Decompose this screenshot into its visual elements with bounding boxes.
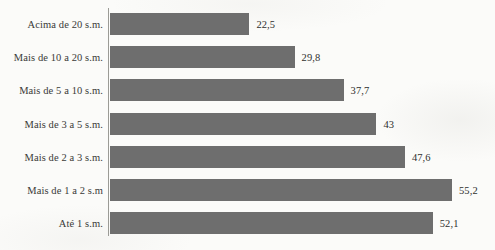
bar-chart: Acima de 20 s.m.22,5Mais de 10 a 20 s.m.… bbox=[0, 0, 495, 250]
bar bbox=[110, 46, 295, 68]
category-label: Mais de 10 a 20 s.m. bbox=[0, 52, 103, 63]
bar-row: Mais de 1 a 2 s.m55,2 bbox=[0, 179, 495, 201]
category-label: Mais de 5 a 10 s.m. bbox=[0, 85, 103, 96]
bar-row: Mais de 10 a 20 s.m.29,8 bbox=[0, 46, 495, 68]
category-label: Mais de 1 a 2 s.m bbox=[0, 185, 103, 196]
category-label: Mais de 3 a 5 s.m. bbox=[0, 118, 103, 129]
bar bbox=[110, 13, 249, 35]
bar-row: Mais de 3 a 5 s.m.43 bbox=[0, 113, 495, 135]
bar bbox=[110, 179, 452, 201]
bar bbox=[110, 212, 433, 234]
category-label: Até 1 s.m. bbox=[0, 218, 103, 229]
bar bbox=[110, 79, 344, 101]
value-label: 55,2 bbox=[459, 185, 478, 196]
bar bbox=[110, 146, 405, 168]
plot-area: Acima de 20 s.m.22,5Mais de 10 a 20 s.m.… bbox=[0, 0, 495, 250]
value-label: 29,8 bbox=[302, 52, 321, 63]
category-label: Acima de 20 s.m. bbox=[0, 19, 103, 30]
category-label: Mais de 2 a 3 s.m. bbox=[0, 151, 103, 162]
bar-row: Mais de 5 a 10 s.m.37,7 bbox=[0, 79, 495, 101]
bar-row: Até 1 s.m.52,1 bbox=[0, 212, 495, 234]
value-label: 52,1 bbox=[440, 218, 459, 229]
bar-row: Acima de 20 s.m.22,5 bbox=[0, 13, 495, 35]
value-label: 47,6 bbox=[412, 151, 431, 162]
value-label: 22,5 bbox=[256, 19, 275, 30]
value-label: 37,7 bbox=[351, 85, 370, 96]
bar-row: Mais de 2 a 3 s.m.47,6 bbox=[0, 146, 495, 168]
bar bbox=[110, 113, 376, 135]
value-label: 43 bbox=[383, 118, 394, 129]
